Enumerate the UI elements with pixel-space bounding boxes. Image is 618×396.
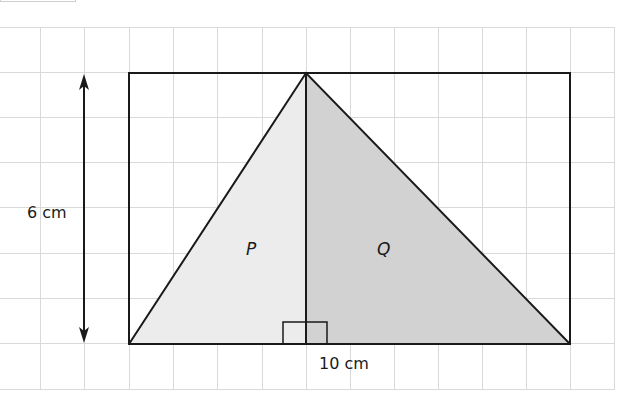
height-arrow (79, 74, 89, 343)
height-label: 6 cm (27, 203, 67, 222)
diagram-canvas (0, 0, 618, 396)
width-label: 10 cm (319, 354, 369, 373)
region-p-label: P (246, 239, 256, 259)
region-q-label: Q (377, 239, 390, 259)
